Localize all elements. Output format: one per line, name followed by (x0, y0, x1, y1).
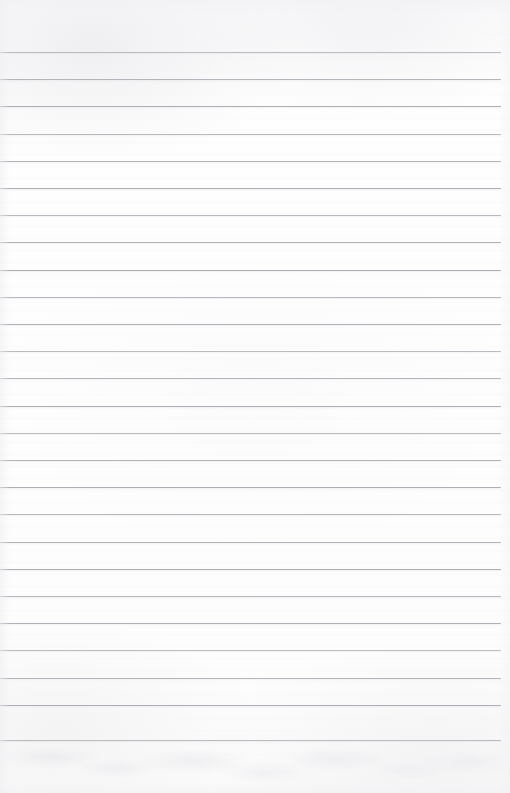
rule-line (0, 351, 501, 352)
rule-line (0, 460, 501, 461)
rule-line (0, 215, 501, 216)
rule-line (0, 134, 501, 135)
rule-line (0, 406, 501, 407)
rule-line (0, 650, 501, 651)
rule-line (0, 106, 501, 107)
rule-line (0, 705, 501, 706)
rule-line (0, 569, 501, 570)
ruled-lines-group (0, 0, 510, 793)
rule-line (0, 324, 501, 325)
rule-line (0, 242, 501, 243)
rule-line (0, 542, 501, 543)
rule-line (0, 740, 501, 741)
ruled-paper-sheet (0, 0, 510, 793)
rule-line (0, 52, 501, 53)
rule-line (0, 623, 501, 624)
rule-line (0, 378, 501, 379)
rule-line (0, 596, 501, 597)
rule-line (0, 297, 501, 298)
rule-line (0, 79, 501, 80)
rule-line (0, 161, 501, 162)
rule-line (0, 433, 501, 434)
rule-line (0, 678, 501, 679)
rule-line (0, 514, 501, 515)
rule-line (0, 188, 501, 189)
rule-line (0, 270, 501, 271)
rule-line (0, 487, 501, 488)
